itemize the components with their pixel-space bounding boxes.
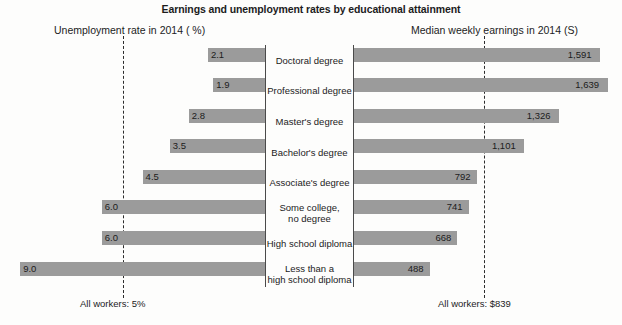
unemployment-bar: [143, 170, 265, 184]
earnings-value-label: 741: [447, 200, 463, 214]
chart-row: 2.1Doctoral degree1,591: [0, 45, 622, 76]
unemployment-value-label: 1.9: [216, 78, 229, 92]
category-label: Professional degree: [266, 76, 353, 107]
unemployment-value-label: 3.5: [173, 139, 186, 153]
left-reference-label: All workers: 5%: [80, 298, 145, 309]
earnings-bar: [354, 48, 600, 62]
earnings-bar: [354, 78, 608, 92]
unemployment-value-label: 4.5: [146, 170, 159, 184]
earnings-value-label: 1,101: [492, 139, 516, 153]
category-label: Less than ahigh school diploma: [266, 259, 353, 290]
category-label: Some college,no degree: [266, 198, 353, 229]
earnings-value-label: 1,326: [527, 109, 551, 123]
earnings-value-label: 792: [455, 170, 471, 184]
earnings-value-label: 668: [436, 231, 452, 245]
unemployment-value-label: 2.8: [192, 109, 205, 123]
earnings-value-label: 1,639: [575, 78, 599, 92]
category-label: Associate's degree: [266, 167, 353, 198]
chart-row: 9.0Less than ahigh school diploma488: [0, 259, 622, 290]
chart-row: 6.0High school diploma668: [0, 229, 622, 260]
unemployment-bar: [20, 262, 265, 276]
earnings-value-label: 1,591: [568, 48, 592, 62]
chart-row: 2.8Master's degree1,326: [0, 106, 622, 137]
category-label: High school diploma: [266, 229, 353, 260]
chart-row: 1.9Professional degree1,639: [0, 76, 622, 107]
unemployment-value-label: 6.0: [105, 200, 118, 214]
right-reference-label: All workers: $839: [438, 298, 511, 309]
category-label: Doctoral degree: [266, 45, 353, 76]
category-label: Master's degree: [266, 106, 353, 137]
chart-figure: Earnings and unemployment rates by educa…: [0, 0, 622, 325]
chart-row: 3.5Bachelor's degree1,101: [0, 137, 622, 168]
category-label: Bachelor's degree: [266, 137, 353, 168]
unemployment-value-label: 6.0: [105, 231, 118, 245]
chart-title: Earnings and unemployment rates by educa…: [0, 3, 622, 15]
earnings-value-label: 488: [408, 262, 424, 276]
chart-row: 4.5Associate's degree792: [0, 167, 622, 198]
chart-row: 6.0Some college,no degree741: [0, 198, 622, 229]
right-panel-axis-label: Median weekly earnings in 2014 (S): [411, 24, 578, 36]
unemployment-bar: [102, 200, 265, 214]
clipped-caption: [8, 317, 298, 325]
chart-rows: 2.1Doctoral degree1,5911.9Professional d…: [0, 45, 622, 290]
unemployment-bar: [102, 231, 265, 245]
unemployment-value-label: 9.0: [23, 262, 36, 276]
unemployment-value-label: 2.1: [211, 48, 224, 62]
left-panel-axis-label: Unemployment rate in 2014 ( %): [54, 24, 205, 36]
